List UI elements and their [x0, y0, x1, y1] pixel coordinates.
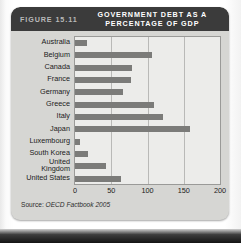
- y-label-line: Luxembourg: [29, 137, 70, 144]
- bar-row: [75, 111, 220, 123]
- y-label-line: Belgium: [44, 51, 70, 58]
- bar-row: [75, 136, 220, 148]
- y-label-belgium: Belgium: [11, 48, 73, 60]
- y-label-line: Canada: [44, 63, 70, 70]
- y-label-line: Australia: [42, 38, 70, 45]
- figure-title-line-2: PERCENTAGE OF GDP: [84, 20, 221, 29]
- x-tick-200: 200: [214, 186, 226, 195]
- bar-united-kingdom: [75, 163, 106, 169]
- source-note: Source: OECD Factbook 2005: [21, 201, 110, 208]
- bar-row: [75, 173, 220, 185]
- bar-japan: [75, 126, 190, 132]
- figure-card: FIGURE 15.11 GOVERNMENT DEBT AS A PERCEN…: [11, 7, 229, 220]
- bar-germany: [75, 89, 123, 95]
- bar-belgium: [75, 52, 152, 58]
- source-value: OECD Factbook 2005: [46, 201, 111, 208]
- bar-france: [75, 77, 131, 83]
- y-label-line: Germany: [40, 88, 70, 95]
- bar-australia: [75, 40, 87, 46]
- y-label-luxembourg: Luxembourg: [11, 135, 73, 147]
- bar-italy: [75, 114, 163, 120]
- plot-wrapper: AustraliaBelgiumCanadaFranceGermanyGreec…: [11, 31, 229, 220]
- y-label-line: France: [47, 75, 70, 82]
- bar-south-korea: [75, 151, 88, 157]
- figure-title-line-1: GOVERNMENT DEBT AS A: [97, 10, 207, 19]
- bar-row: [75, 49, 220, 61]
- bar-row: [75, 99, 220, 111]
- bar-series: [75, 37, 220, 184]
- y-label-line: Italy: [57, 112, 70, 119]
- bar-row: [75, 123, 220, 135]
- y-label-line: Greece: [46, 100, 70, 107]
- figure-number: FIGURE 15.11: [11, 15, 78, 24]
- x-tick-0: 0: [73, 186, 77, 195]
- bar-row: [75, 86, 220, 98]
- figure-title: GOVERNMENT DEBT AS A PERCENTAGE OF GDP: [78, 11, 229, 28]
- y-label-united-kingdom: UnitedKingdom: [11, 159, 73, 171]
- chart-plot-area: [74, 36, 221, 185]
- y-axis-category-labels: AustraliaBelgiumCanadaFranceGermanyGreec…: [11, 36, 73, 185]
- y-label-canada: Canada: [11, 61, 73, 73]
- bar-united-states: [75, 176, 121, 182]
- page-background: FIGURE 15.11 GOVERNMENT DEBT AS A PERCEN…: [0, 0, 241, 243]
- source-label: Source:: [21, 201, 44, 208]
- bar-luxembourg: [75, 139, 80, 145]
- y-label-line: United States: [26, 174, 70, 181]
- bar-row: [75, 160, 220, 172]
- x-axis-tick-labels: 050100150200: [74, 186, 221, 198]
- y-label-germany: Germany: [11, 85, 73, 97]
- y-label-line: South Korea: [29, 149, 70, 156]
- bar-row: [75, 62, 220, 74]
- y-label-greece: Greece: [11, 98, 73, 110]
- x-tick-150: 150: [178, 186, 190, 195]
- y-label-united-states: United States: [11, 172, 73, 184]
- bar-greece: [75, 102, 154, 108]
- bar-row: [75, 74, 220, 86]
- page-bottom-edge: [0, 229, 241, 243]
- y-label-australia: Australia: [11, 36, 73, 48]
- y-label-line: Japan: [50, 125, 70, 132]
- bar-row: [75, 37, 220, 49]
- bar-canada: [75, 65, 132, 71]
- y-label-japan: Japan: [11, 122, 73, 134]
- y-label-france: France: [11, 73, 73, 85]
- x-tick-50: 50: [107, 186, 115, 195]
- y-label-italy: Italy: [11, 110, 73, 122]
- x-tick-100: 100: [141, 186, 153, 195]
- y-label-line: Kingdom: [41, 165, 70, 172]
- bar-row: [75, 148, 220, 160]
- figure-header: FIGURE 15.11 GOVERNMENT DEBT AS A PERCEN…: [11, 7, 229, 31]
